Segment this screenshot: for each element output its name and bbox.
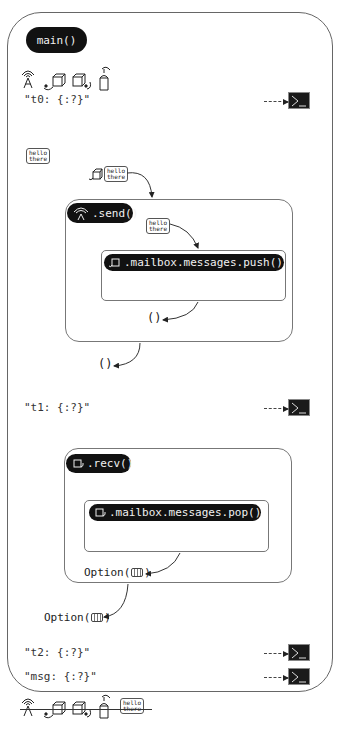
push-return-value: () xyxy=(147,311,161,325)
option-close: ) xyxy=(144,566,151,579)
push-function-pill: .mailbox.messages.push() xyxy=(104,254,284,271)
message-bubble: hello there xyxy=(146,218,170,234)
mailbox-icon xyxy=(100,695,110,718)
receiver-box-icon xyxy=(71,457,85,470)
push-label: .mailbox.messages.push() xyxy=(124,256,283,269)
print-arrow xyxy=(264,408,286,409)
send-function-pill: .send() xyxy=(67,203,133,223)
sender-box-icon xyxy=(88,167,104,183)
antenna-icon xyxy=(72,205,90,221)
sender-box-icon xyxy=(44,74,65,90)
message-bubble: hello there xyxy=(104,166,128,182)
option-open: Option( xyxy=(84,566,130,579)
recv-label: .recv() xyxy=(87,457,133,470)
print-t2: "t2: {:?}" xyxy=(24,646,90,659)
drop-strikethrough-line xyxy=(20,709,152,710)
main-scope-frame xyxy=(7,12,333,692)
pop-return-value: Option( ) xyxy=(84,566,151,579)
print-arrow xyxy=(264,101,286,102)
pop-label: .mailbox.messages.pop() xyxy=(109,506,261,519)
send-label: .send() xyxy=(92,207,138,220)
pop-function-pill: .mailbox.messages.pop() xyxy=(89,504,261,521)
message-bubble-icon xyxy=(91,613,103,622)
send-return-value: () xyxy=(98,357,112,371)
message-bubble-icon xyxy=(131,568,143,577)
message-line2: there xyxy=(107,174,125,180)
main-label: main() xyxy=(37,34,77,47)
print-t1: "t1: {:?}" xyxy=(24,401,90,414)
actors-icon-row xyxy=(18,66,128,92)
terminal-icon xyxy=(288,399,310,416)
antenna-icon xyxy=(22,699,34,716)
terminal-icon xyxy=(288,668,310,685)
main-function-pill: main() xyxy=(26,27,87,53)
option-close: ) xyxy=(104,611,111,624)
sender-box-icon xyxy=(108,256,122,269)
dropped-actors-icon-row xyxy=(18,694,128,720)
message-line2: there xyxy=(29,156,47,162)
terminal-icon xyxy=(288,92,310,109)
terminal-icon xyxy=(288,644,310,661)
mailbox-icon xyxy=(100,67,110,90)
message-bubble: hello there xyxy=(120,698,144,714)
recv-function-pill: .recv() xyxy=(66,454,131,473)
print-t0: "t0: {:?}" xyxy=(24,93,90,106)
print-arrow xyxy=(264,653,286,654)
recv-return-value: Option( ) xyxy=(44,611,111,624)
receiver-box-icon xyxy=(73,74,91,89)
message-line2: there xyxy=(149,226,167,232)
antenna-icon xyxy=(22,71,34,88)
receiver-box-icon xyxy=(93,506,107,519)
print-msg: "msg: {:?}" xyxy=(24,670,97,683)
print-arrow xyxy=(264,677,286,678)
message-bubble: hello there xyxy=(26,148,50,164)
option-open: Option( xyxy=(44,611,90,624)
